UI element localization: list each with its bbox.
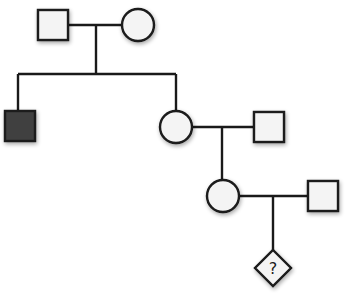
unknown-status-label: ? <box>269 259 278 278</box>
affected-male-individual-II-1[interactable] <box>5 111 35 141</box>
female-individual-III-1[interactable] <box>207 180 239 212</box>
female-individual-II-2[interactable] <box>160 111 192 143</box>
male-individual-I-1[interactable] <box>38 10 68 40</box>
male-individual-II-3[interactable] <box>254 112 284 142</box>
female-individual-I-2[interactable] <box>122 9 154 41</box>
pedigree-diagram: ? <box>0 0 347 298</box>
male-individual-III-2[interactable] <box>308 181 338 211</box>
